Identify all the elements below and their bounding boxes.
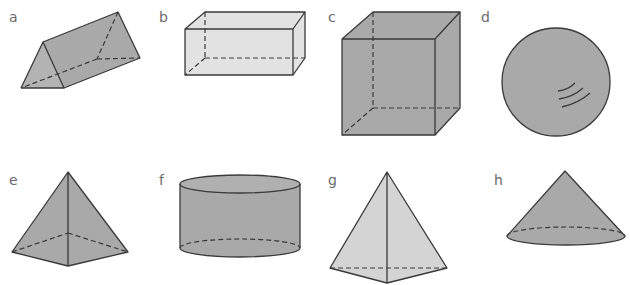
triangular-prism-shape [21, 12, 140, 88]
cone-shape [507, 171, 625, 245]
triangular-pyramid-shape [330, 172, 447, 283]
shapes-canvas [0, 0, 630, 285]
sphere-shape [502, 28, 610, 136]
cube-shape [342, 12, 460, 135]
cuboid-shape [185, 12, 305, 75]
square-pyramid-shape [12, 172, 128, 266]
cylinder-shape [180, 175, 300, 257]
